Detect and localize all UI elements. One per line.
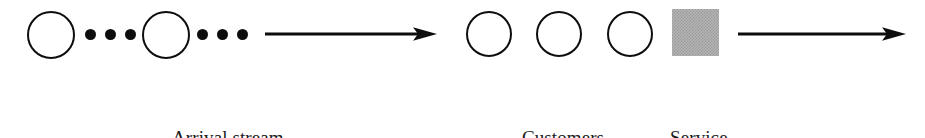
ellipsis-dot (197, 29, 208, 40)
queue-customer-circle-2 (536, 11, 582, 57)
service-facility-square (672, 9, 719, 56)
arrival-customer-circle-1 (27, 11, 75, 59)
ellipsis-dot (105, 29, 116, 40)
service-facility-label: Service facility (670, 80, 780, 138)
customers-in-queue-label-line1: Customers (508, 126, 618, 138)
service-facility-label-line1: Service (670, 126, 780, 138)
queue-customer-circle-1 (466, 11, 512, 57)
queue-customer-circle-3 (607, 11, 653, 57)
queueing-system-diagram: Arrival stream Customers in queue Servic… (0, 0, 925, 138)
ellipsis-dot (85, 29, 96, 40)
ellipsis-dot (237, 29, 248, 40)
arrival-customer-circle-2 (142, 11, 190, 59)
arrival-flow-arrow (265, 23, 437, 45)
ellipsis-dot (217, 29, 228, 40)
ellipsis-dot (125, 29, 136, 40)
arrival-stream-label-text: Arrival stream (172, 126, 284, 138)
departure-flow-arrow (738, 23, 906, 45)
customers-in-queue-label: Customers in queue (508, 80, 618, 138)
arrival-stream-label: Arrival stream (172, 80, 284, 138)
